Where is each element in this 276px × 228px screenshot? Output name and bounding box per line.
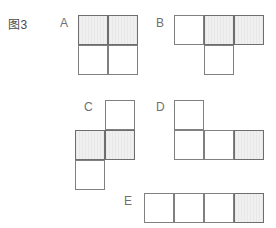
shape-b-cell-plain — [204, 45, 234, 75]
shape-label-d: D — [156, 100, 165, 114]
shape-d-cell-shaded — [234, 130, 264, 160]
shape-c-cell-plain — [75, 160, 105, 190]
shape-e-cell-plain — [204, 193, 234, 223]
shape-b-cell-shaded — [204, 15, 234, 45]
shape-e-cell-plain — [144, 193, 174, 223]
shape-e-cell-shaded — [234, 193, 264, 223]
shape-a-cell-plain — [78, 45, 108, 75]
shape-label-c: C — [84, 100, 93, 114]
shape-b-cell-shaded — [234, 15, 264, 45]
shape-label-e: E — [124, 194, 132, 208]
shape-b-cell-plain — [174, 15, 204, 45]
shape-d-cell-plain — [174, 130, 204, 160]
shape-c-cell-plain — [105, 100, 135, 130]
shape-a-cell-shaded — [78, 15, 108, 45]
shape-label-a: A — [60, 16, 68, 30]
shape-c-cell-shaded — [75, 130, 105, 160]
shape-c-cell-shaded — [105, 130, 135, 160]
shape-d-cell-plain — [204, 130, 234, 160]
figure-caption: 图3 — [8, 15, 28, 32]
tetromino-figure: 图3 ABCDE — [0, 0, 276, 228]
shape-a-cell-shaded — [108, 15, 138, 45]
shape-d-cell-plain — [174, 100, 204, 130]
shape-e-cell-plain — [174, 193, 204, 223]
shape-a-cell-plain — [108, 45, 138, 75]
shape-label-b: B — [156, 16, 164, 30]
